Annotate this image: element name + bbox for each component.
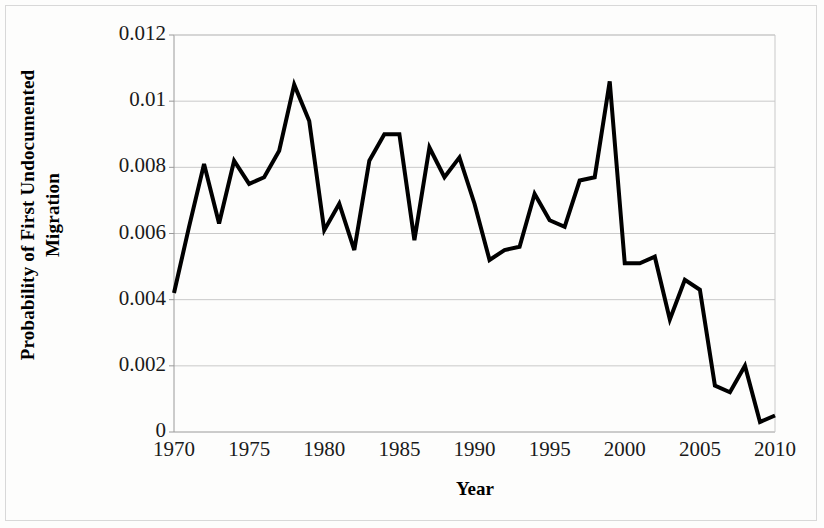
x-axis-tick-label: 2000 (585, 437, 665, 462)
x-axis-tick-label: 1995 (510, 437, 590, 462)
x-axis-title: Year (174, 478, 776, 500)
x-axis-tick-label: 2005 (660, 437, 740, 462)
x-axis-tick-label: 1985 (359, 437, 439, 462)
x-axis-tick-label: 2010 (735, 437, 815, 462)
gridlines (174, 35, 775, 432)
x-axis-tick-label: 1975 (209, 437, 289, 462)
chart-figure: Probability of First Undocumented Migrat… (0, 0, 824, 528)
x-axis-tick-label: 1970 (134, 437, 214, 462)
x-axis-tick-label: 1980 (284, 437, 364, 462)
x-axis-tick-label: 1990 (435, 437, 515, 462)
data-series-line (174, 81, 775, 422)
